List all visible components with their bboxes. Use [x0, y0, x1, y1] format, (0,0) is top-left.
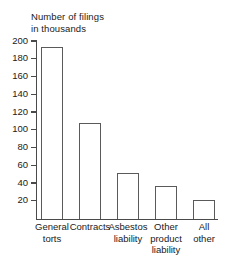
- bar-all-other: [193, 200, 215, 219]
- x-label-asbestos-liability: Asbestos liability: [106, 221, 150, 244]
- y-axis-line: [36, 40, 37, 220]
- x-label-line: liability: [106, 233, 150, 245]
- y-tick-mark: [31, 94, 37, 95]
- y-tick-label-140: 140: [12, 88, 28, 100]
- y-tick-label-40: 40: [17, 177, 28, 189]
- bar-asbestos-liability: [117, 173, 139, 219]
- y-tick-mark: [31, 200, 37, 201]
- y-tick-label-80: 80: [17, 141, 28, 153]
- y-tick-label-160: 160: [12, 70, 28, 82]
- y-tick-mark: [31, 111, 37, 112]
- x-label-line: All: [185, 221, 223, 233]
- x-label-line: Other: [145, 221, 187, 233]
- y-tick-mark: [31, 147, 37, 148]
- y-tick-mark: [31, 165, 37, 166]
- x-label-other-product-liability: Other product liability: [145, 221, 187, 256]
- x-label-line: torts: [30, 233, 74, 245]
- y-tick-mark: [31, 58, 37, 59]
- bar-contracts: [79, 123, 101, 219]
- x-label-line: other: [185, 233, 223, 245]
- bar-general-torts: [41, 47, 63, 219]
- y-tick-label-200: 200: [12, 35, 28, 47]
- y-tick-label-180: 180: [12, 52, 28, 64]
- y-tick-mark: [31, 40, 37, 41]
- x-label-line: Asbestos: [106, 221, 150, 233]
- x-label-line: liability: [145, 244, 187, 256]
- bar-other-product-liability: [155, 186, 177, 219]
- y-tick-mark: [31, 76, 37, 77]
- axis-title-line-2: in thousands: [31, 23, 104, 35]
- axis-title-line-1: Number of filings: [31, 11, 104, 23]
- chart-axis-title: Number of filings in thousands: [31, 11, 104, 35]
- y-tick-mark: [31, 182, 37, 183]
- y-tick-label-120: 120: [12, 106, 28, 118]
- x-label-line: product: [145, 233, 187, 245]
- y-tick-label-20: 20: [17, 194, 28, 206]
- y-tick-label-60: 60: [17, 159, 28, 171]
- bar-chart: Number of filings in thousands 200 180 1…: [0, 0, 234, 270]
- y-tick-label-100: 100: [12, 123, 28, 135]
- y-tick-mark: [31, 129, 37, 130]
- x-label-all-other: All other: [185, 221, 223, 244]
